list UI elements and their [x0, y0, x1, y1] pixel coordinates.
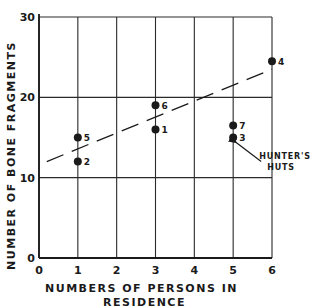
x-axis-title: NUMBERS OF PERSONS INRESIDENCE [45, 282, 238, 308]
y-tick-label: 0 [27, 252, 35, 265]
point-label-5: 5 [84, 133, 90, 143]
scatter-chart: 0123456 0102030 1234567 HUNTER'SHUTS NUM… [0, 0, 317, 308]
data-point-7 [229, 121, 237, 129]
data-point-3 [229, 134, 237, 142]
data-point-6 [152, 101, 160, 109]
y-tick-label: 10 [20, 172, 36, 185]
y-tick-label: 20 [20, 91, 36, 104]
y-tick-label: 30 [20, 11, 36, 24]
point-label-4: 4 [278, 57, 284, 67]
x-axis-title-line-1: NUMBERS OF PERSONS IN [45, 282, 238, 295]
x-tick-label: 6 [268, 264, 276, 277]
point-label-6: 6 [162, 101, 168, 111]
y-axis-ticks: 0102030 [20, 11, 36, 265]
x-tick-label: 5 [229, 264, 237, 277]
data-point-2 [74, 158, 82, 166]
x-axis-title-line-2: RESIDENCE [103, 296, 186, 308]
y-axis-title-text: NUMBER OF BONE FRAGMENTS [5, 41, 18, 270]
data-point-5 [74, 134, 82, 142]
annotation-text-line: HUTS [267, 163, 295, 172]
data-point-4 [268, 57, 276, 65]
hunters-huts-annotation: HUNTER'SHUTS [236, 143, 311, 172]
data-points: 1234567 [74, 57, 284, 167]
y-axis-title: NUMBER OF BONE FRAGMENTS [5, 41, 18, 270]
x-axis-ticks: 0123456 [35, 264, 276, 277]
annotation-arrow-icon [236, 143, 261, 162]
trend-line [47, 69, 272, 161]
point-label-1: 1 [162, 125, 168, 135]
data-point-1 [152, 125, 160, 133]
point-label-2: 2 [84, 157, 90, 167]
x-tick-label: 3 [152, 264, 160, 277]
x-tick-label: 4 [191, 264, 199, 277]
x-tick-label: 1 [74, 264, 82, 277]
x-tick-label: 2 [113, 264, 121, 277]
x-tick-label: 0 [35, 264, 43, 277]
dashed-trend-line [47, 69, 272, 161]
point-label-3: 3 [239, 133, 245, 143]
annotation-text-line: HUNTER'S [259, 152, 311, 161]
point-label-7: 7 [239, 121, 245, 131]
